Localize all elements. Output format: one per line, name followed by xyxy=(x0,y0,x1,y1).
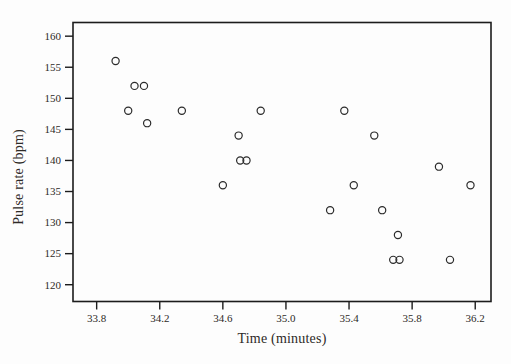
data-point xyxy=(125,107,132,114)
data-point xyxy=(341,107,348,114)
y-tick-label: 140 xyxy=(45,154,62,166)
y-tick-label: 130 xyxy=(45,216,62,228)
data-point xyxy=(178,107,185,114)
y-tick-label: 145 xyxy=(45,123,62,135)
x-tick-label: 35.4 xyxy=(339,312,359,324)
data-point xyxy=(371,132,378,139)
data-point xyxy=(327,207,334,214)
scatter-plot-figure: Pulse rate (bpm) 33.834.234.635.035.435.… xyxy=(0,0,511,364)
data-point xyxy=(112,57,119,64)
x-tick-label: 36.2 xyxy=(466,312,485,324)
plot-border xyxy=(73,23,491,302)
data-point xyxy=(140,82,147,89)
y-tick-label: 160 xyxy=(45,30,62,42)
data-point xyxy=(379,207,386,214)
y-tick-label: 150 xyxy=(45,92,62,104)
y-tick-label: 125 xyxy=(45,247,62,259)
data-point xyxy=(219,182,226,189)
y-tick-label: 155 xyxy=(45,61,62,73)
data-point xyxy=(235,132,242,139)
data-point xyxy=(131,82,138,89)
x-tick-label: 33.8 xyxy=(87,312,107,324)
data-point xyxy=(394,231,401,238)
data-point xyxy=(350,182,357,189)
data-point xyxy=(446,256,453,263)
x-axis-label: Time (minutes) xyxy=(73,331,491,347)
x-tick-label: 34.2 xyxy=(150,312,169,324)
y-tick-label: 120 xyxy=(45,279,62,291)
data-point xyxy=(467,182,474,189)
y-tick-label: 135 xyxy=(45,185,62,197)
x-tick-label: 34.6 xyxy=(213,312,233,324)
data-point xyxy=(144,120,151,127)
x-tick-label: 35.8 xyxy=(403,312,423,324)
scatter-chart: 33.834.234.635.035.435.836.2120125130135… xyxy=(0,0,511,364)
data-point xyxy=(435,163,442,170)
x-tick-label: 35.0 xyxy=(276,312,296,324)
data-point xyxy=(257,107,264,114)
